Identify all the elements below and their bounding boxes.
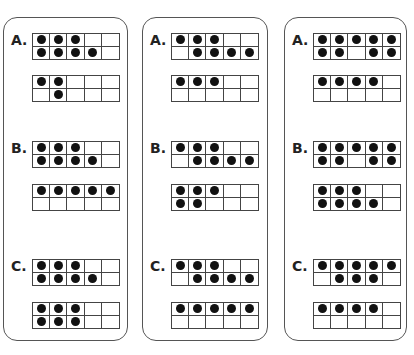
ten-frame-bottom — [313, 75, 401, 102]
ten-frame-cell — [189, 47, 206, 60]
ten-frame-cell — [172, 198, 189, 211]
counter-dot-icon — [352, 186, 361, 195]
ten-frame-cell — [85, 142, 102, 155]
ten-frame-cell — [33, 47, 50, 60]
ten-frame-cell — [85, 303, 102, 316]
counter-dot-icon — [88, 186, 97, 195]
ten-frame-cell — [366, 34, 383, 47]
counter-dot-icon — [37, 77, 46, 86]
ten-frame-bottom — [32, 302, 120, 329]
ten-frame-cell — [172, 316, 189, 329]
ten-frame-cell — [206, 198, 223, 211]
counter-dot-icon — [193, 274, 202, 283]
ten-frame-cell — [206, 303, 223, 316]
ten-frame-cell — [85, 34, 102, 47]
counter-dot-icon — [245, 156, 254, 165]
ten-frame-bottom — [313, 302, 401, 329]
ten-frame-cell — [348, 198, 365, 211]
counter-dot-icon — [210, 143, 219, 152]
ten-frame-cell — [102, 260, 119, 273]
ten-frame-cell — [189, 76, 206, 89]
counter-dot-icon — [54, 274, 63, 283]
counter-dot-icon — [176, 186, 185, 195]
ten-frame-cell — [85, 47, 102, 60]
ten-frame-top — [313, 33, 401, 60]
ten-frame-bottom — [171, 184, 259, 211]
ten-frame-cell — [102, 303, 119, 316]
ten-frame-cell — [314, 89, 331, 102]
ten-frame-cell — [67, 198, 84, 211]
ten-frame-top — [32, 141, 120, 168]
ten-frame-cell — [67, 273, 84, 286]
ten-frame-cell — [172, 47, 189, 60]
counter-dot-icon — [88, 274, 97, 283]
counter-dot-icon — [193, 199, 202, 208]
counter-dot-icon — [210, 261, 219, 270]
ten-frame-cell — [348, 155, 365, 168]
ten-frame-cell — [172, 260, 189, 273]
ten-frame-cell — [366, 155, 383, 168]
ten-frame-cell — [314, 142, 331, 155]
ten-frame-cell — [331, 47, 348, 60]
counter-dot-icon — [245, 48, 254, 57]
counter-dot-icon — [193, 35, 202, 44]
counter-dot-icon — [37, 143, 46, 152]
ten-frame-cell — [383, 142, 400, 155]
ten-frame-cell — [241, 142, 258, 155]
ten-frame-cell — [331, 303, 348, 316]
ten-frame-cell — [366, 273, 383, 286]
ten-frame-cell — [331, 76, 348, 89]
ten-frame-top — [32, 259, 120, 286]
counter-dot-icon — [369, 143, 378, 152]
problem-label: C. — [11, 258, 27, 274]
counter-dot-icon — [352, 261, 361, 270]
ten-frame-cell — [102, 89, 119, 102]
ten-frame-cell — [85, 185, 102, 198]
counter-dot-icon — [318, 304, 327, 313]
ten-frame-cell — [206, 185, 223, 198]
counter-dot-icon — [387, 156, 396, 165]
counter-dot-icon — [335, 186, 344, 195]
ten-frame-cell — [33, 303, 50, 316]
counter-dot-icon — [210, 48, 219, 57]
ten-frame-cell — [241, 76, 258, 89]
ten-frame-cell — [85, 273, 102, 286]
counter-dot-icon — [245, 274, 254, 283]
ten-frame-cell — [102, 273, 119, 286]
counter-dot-icon — [37, 317, 46, 326]
counter-dot-icon — [176, 143, 185, 152]
counter-dot-icon — [54, 304, 63, 313]
ten-frame-bottom — [171, 75, 259, 102]
ten-frame-cell — [206, 142, 223, 155]
ten-frame-cell — [331, 198, 348, 211]
counter-dot-icon — [335, 261, 344, 270]
counter-dot-icon — [318, 186, 327, 195]
ten-frame-cell — [102, 155, 119, 168]
counter-dot-icon — [335, 77, 344, 86]
ten-frame-cell — [189, 34, 206, 47]
counter-dot-icon — [387, 48, 396, 57]
ten-frame-cell — [224, 34, 241, 47]
ten-frame-cell — [314, 273, 331, 286]
ten-frame-cell — [314, 303, 331, 316]
ten-frame-cell — [241, 316, 258, 329]
ten-frame-cell — [102, 316, 119, 329]
ten-frame-cell — [383, 76, 400, 89]
ten-frame-cell — [348, 185, 365, 198]
counter-dot-icon — [352, 274, 361, 283]
counter-dot-icon — [210, 186, 219, 195]
ten-frame-cell — [206, 260, 223, 273]
ten-frame-cell — [206, 76, 223, 89]
ten-frame-cell — [67, 316, 84, 329]
ten-frame-cell — [206, 89, 223, 102]
ten-frame-cell — [314, 260, 331, 273]
ten-frame-cell — [67, 142, 84, 155]
problem-label: A. — [11, 32, 27, 48]
ten-frame-cell — [33, 185, 50, 198]
ten-frame-cell — [348, 142, 365, 155]
problem-card-3 — [284, 17, 407, 341]
ten-frame-top — [171, 141, 259, 168]
counter-dot-icon — [37, 274, 46, 283]
ten-frame-cell — [33, 273, 50, 286]
ten-frame-cell — [366, 260, 383, 273]
